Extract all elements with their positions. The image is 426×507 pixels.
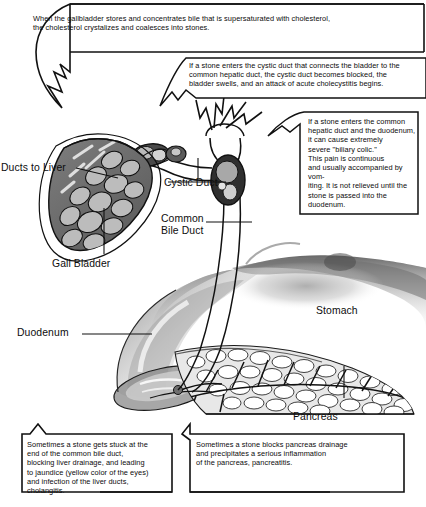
- label-common-bile-duct: Common Bile Duct: [161, 213, 204, 237]
- callout-text-pancreatitis: Sometimes a stone blocks pancreas draina…: [196, 440, 404, 468]
- callout-text-cholesterol-stones: When the gallbladder stores and concentr…: [33, 14, 393, 32]
- label-stomach: Stomach: [316, 305, 358, 317]
- label-pancreas: Pancreas: [293, 411, 338, 423]
- callout-text-cystic-duct-blockage: If a stone enters the cystic duct that c…: [189, 61, 421, 89]
- callout-text-biliary-colic: If a stone enters the common hepatic duc…: [308, 117, 416, 209]
- gallstone-diagram-page: When the gallbladder stores and concentr…: [0, 0, 426, 507]
- pancreas-shape: [175, 345, 422, 418]
- label-cystic-duct: Cystic Duct: [164, 177, 218, 189]
- callout-text-cholangitis: Sometimes a stone gets stuck at the end …: [27, 440, 199, 495]
- label-gall-bladder: Gall Bladder: [52, 258, 110, 270]
- label-duodenum: Duodenum: [17, 327, 69, 339]
- label-ducts-to-liver: Ducts to Liver: [1, 162, 66, 174]
